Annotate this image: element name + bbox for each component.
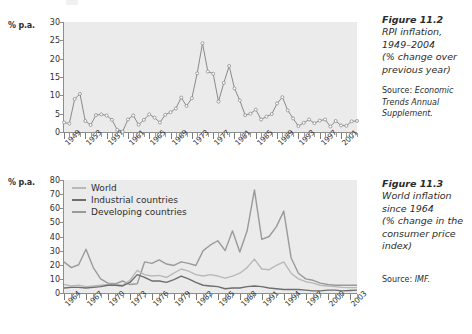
x-tick-mark bbox=[325, 133, 326, 137]
x-tick-mark bbox=[298, 294, 299, 298]
legend-swatch-industrial bbox=[72, 199, 86, 201]
x-tick-mark bbox=[346, 133, 347, 137]
series-marker bbox=[116, 128, 119, 131]
x-tick-mark bbox=[187, 133, 188, 137]
series-marker bbox=[286, 109, 289, 112]
y-tick-label: 60 bbox=[36, 204, 60, 213]
series-marker bbox=[105, 114, 108, 117]
series-marker bbox=[350, 120, 353, 123]
series-marker bbox=[270, 113, 273, 116]
x-tick-mark bbox=[261, 133, 262, 137]
figure-11-2-source: Source: Economic Trends Annual Supplemen… bbox=[382, 85, 470, 120]
x-tick-mark bbox=[69, 133, 70, 137]
y-tick-label: 0 bbox=[36, 289, 60, 298]
series-marker bbox=[121, 130, 124, 133]
series-marker bbox=[308, 118, 311, 121]
x-tick-mark bbox=[330, 133, 331, 137]
y-tick-label: 25 bbox=[36, 36, 60, 45]
caption-line: World inflation bbox=[382, 190, 470, 202]
x-tick-mark bbox=[159, 294, 160, 298]
series-marker bbox=[63, 121, 66, 124]
y-tick-label: 70 bbox=[36, 190, 60, 199]
series-marker bbox=[238, 99, 241, 102]
x-tick-mark bbox=[335, 294, 336, 298]
series-marker bbox=[89, 124, 92, 127]
x-tick-mark bbox=[320, 294, 321, 298]
series-marker bbox=[158, 121, 161, 124]
x-tick-mark bbox=[176, 133, 177, 137]
x-tick-mark bbox=[123, 133, 124, 137]
x-tick-mark bbox=[272, 133, 273, 137]
legend-swatch-world bbox=[72, 187, 86, 189]
x-tick-mark bbox=[247, 294, 248, 298]
series-marker bbox=[201, 42, 204, 45]
legend-item-industrial[interactable]: Industrial countries bbox=[72, 194, 187, 206]
series-marker bbox=[190, 97, 193, 100]
series-marker bbox=[318, 119, 321, 122]
caption-line: Figure 11.2 bbox=[382, 14, 470, 26]
series-marker bbox=[84, 120, 87, 123]
series-marker bbox=[260, 118, 263, 121]
x-tick-mark bbox=[313, 294, 314, 298]
series-marker bbox=[324, 118, 327, 121]
caption-line: (% change over bbox=[382, 51, 470, 63]
series-marker bbox=[196, 72, 199, 75]
legend-item-world[interactable]: World bbox=[72, 182, 187, 194]
x-tick-mark bbox=[80, 133, 81, 137]
series-marker bbox=[292, 117, 295, 120]
series-marker bbox=[110, 118, 113, 121]
x-tick-mark bbox=[218, 133, 219, 137]
y-tick-label: 20 bbox=[36, 54, 60, 63]
series-marker bbox=[206, 70, 209, 73]
series-marker bbox=[265, 115, 268, 118]
x-tick-mark bbox=[145, 294, 146, 298]
x-tick-mark bbox=[291, 294, 292, 298]
series-marker bbox=[233, 87, 236, 90]
caption-line: previous year) bbox=[382, 64, 470, 76]
x-tick-mark bbox=[203, 294, 204, 298]
x-tick-mark bbox=[293, 133, 294, 137]
series-marker bbox=[356, 120, 359, 123]
caption-line: index) bbox=[382, 240, 470, 252]
x-tick-mark bbox=[254, 294, 255, 298]
x-tick-mark bbox=[232, 294, 233, 298]
x-tick-mark bbox=[189, 294, 190, 298]
x-tick-mark bbox=[197, 133, 198, 137]
series-marker bbox=[180, 96, 183, 99]
x-tick-mark bbox=[71, 294, 72, 298]
series-marker bbox=[185, 104, 188, 107]
series-marker bbox=[174, 107, 177, 110]
x-tick-mark bbox=[133, 133, 134, 137]
series-marker bbox=[340, 124, 343, 127]
figure-11-2-title: Figure 11.2 RPI inflation, 1949–2004 (% … bbox=[382, 14, 470, 76]
x-tick-mark bbox=[165, 133, 166, 137]
series-marker bbox=[334, 120, 337, 123]
x-tick-mark bbox=[250, 133, 251, 137]
x-tick-mark bbox=[225, 294, 226, 298]
x-tick-mark bbox=[181, 133, 182, 137]
series-marker bbox=[94, 114, 97, 117]
series-marker bbox=[100, 113, 103, 116]
x-tick-mark bbox=[288, 133, 289, 137]
series-marker bbox=[148, 113, 151, 116]
x-tick-mark bbox=[352, 133, 353, 137]
x-tick-mark bbox=[224, 133, 225, 137]
series-marker bbox=[313, 122, 316, 125]
x-tick-mark bbox=[240, 133, 241, 137]
x-tick-mark bbox=[276, 294, 277, 298]
series-marker bbox=[169, 111, 172, 114]
caption-line: Figure 11.3 bbox=[382, 178, 470, 190]
x-tick-mark bbox=[266, 133, 267, 137]
legend-swatch-developing bbox=[72, 211, 86, 213]
x-tick-mark bbox=[79, 294, 80, 298]
x-tick-mark bbox=[112, 133, 113, 137]
chart2-y-axis-label: % p.a. bbox=[8, 178, 35, 187]
source-prefix: Source: bbox=[382, 86, 415, 95]
x-tick-mark bbox=[336, 133, 337, 137]
source-prefix: Source: bbox=[382, 275, 415, 284]
series-marker bbox=[222, 81, 225, 84]
x-tick-mark bbox=[91, 133, 92, 137]
y-tick-label: 0 bbox=[36, 128, 60, 137]
legend-item-developing[interactable]: Developing countries bbox=[72, 206, 187, 218]
y-tick-label: 10 bbox=[36, 91, 60, 100]
